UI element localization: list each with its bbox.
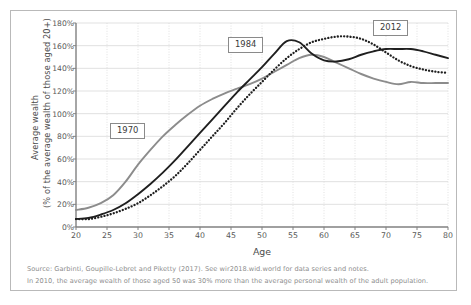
y-axis-title-line1: Average wealth	[30, 95, 40, 160]
x-tick-label: 55	[288, 231, 298, 240]
x-axis-title: Age	[76, 246, 448, 257]
x-tick-label: 25	[102, 231, 112, 240]
source-note: Source: Garbinti, Goupille-Lebret and Pi…	[27, 265, 369, 273]
series-annotation-1984: 1984	[228, 37, 263, 53]
x-tick-label: 50	[257, 231, 267, 240]
x-tick-label: 30	[133, 231, 143, 240]
x-tick-label: 40	[195, 231, 205, 240]
x-tick-label: 70	[381, 231, 391, 240]
x-tick-label: 45	[226, 231, 236, 240]
series-annotation-2012: 2012	[373, 20, 408, 36]
x-tick-label: 80	[443, 231, 453, 240]
x-tick-label: 20	[71, 231, 81, 240]
x-tick-label: 35	[164, 231, 174, 240]
x-tick-label: 75	[412, 231, 422, 240]
x-axis-tick-labels: 20253035404550556065707580	[0, 231, 471, 245]
x-tick-label: 65	[350, 231, 360, 240]
series-annotation-1970: 1970	[110, 123, 145, 139]
x-tick-label: 60	[319, 231, 329, 240]
y-axis-title-line2: (% of the average wealth of those aged 2…	[42, 18, 52, 208]
interpretation-note: In 2010, the average wealth of those age…	[27, 277, 428, 285]
